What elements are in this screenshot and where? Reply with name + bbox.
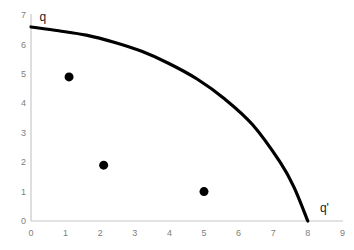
y-axis-tick-label: 5 [12, 70, 26, 79]
y-axis-tick-label: 7 [12, 11, 26, 20]
x-axis-tick-label: 2 [98, 229, 103, 238]
scatter-points [65, 72, 209, 196]
curve-end-label: q' [320, 202, 329, 214]
data-point [200, 187, 209, 196]
x-axis-tick-label: 1 [63, 229, 68, 238]
x-axis-tick-label: 0 [28, 229, 33, 238]
x-axis-tick-label: 7 [271, 229, 276, 238]
x-axis-tick-label: 5 [201, 229, 206, 238]
frontier-curve [31, 27, 308, 221]
y-axis-tick-label: 6 [12, 40, 26, 49]
data-point [99, 161, 108, 170]
x-axis-tick-label: 4 [167, 229, 172, 238]
y-axis-tick-label: 2 [12, 158, 26, 167]
y-axis-tick-label: 0 [12, 217, 26, 226]
x-axis-tick-label: 8 [305, 229, 310, 238]
chart-container: 0123456789 01234567 qq' [0, 0, 354, 250]
x-axis-tick-label: 6 [236, 229, 241, 238]
x-axis-tick-label: 3 [132, 229, 137, 238]
data-point [65, 72, 74, 81]
series-group [31, 27, 308, 221]
y-axis-tick-label: 4 [12, 99, 26, 108]
chart-plot-area [0, 0, 354, 250]
y-axis-tick-label: 1 [12, 187, 26, 196]
curve-start-label: q [40, 11, 47, 23]
y-axis-tick-label: 3 [12, 128, 26, 137]
x-axis-tick-label: 9 [340, 229, 345, 238]
